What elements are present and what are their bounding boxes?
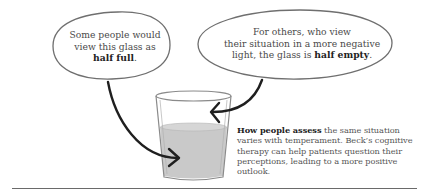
half-full-emphasis: half full <box>93 52 134 63</box>
caption: How people assess the same situation var… <box>237 125 422 176</box>
bubble-right-period: . <box>369 49 372 60</box>
bubble-right-line1: For others, who view <box>218 26 386 38</box>
half-empty-emphasis: half empty <box>314 49 369 60</box>
bubble-right-text: For others, who view their situation in … <box>218 26 386 61</box>
bubble-right-line3-pre: light, the glass is <box>232 49 314 60</box>
glass-rim <box>156 91 231 101</box>
bottom-divider <box>12 188 417 189</box>
bubble-left-period: . <box>134 52 137 63</box>
bubble-right-line3: light, the glass is half empty. <box>218 49 386 61</box>
bubble-left-line1: Some people would <box>66 29 164 41</box>
bubble-right-line2: their situation in a more negative <box>218 38 386 50</box>
arrow-half-empty-icon <box>211 80 262 122</box>
bubble-left-line3: half full. <box>66 52 164 64</box>
bubble-left-line2: view this glass as <box>66 41 164 53</box>
liquid-surface <box>161 123 227 131</box>
glass-icon <box>156 91 231 180</box>
bubble-left-text: Some people would view this glass as hal… <box>66 29 164 64</box>
caption-lead: How people assess <box>237 125 322 135</box>
